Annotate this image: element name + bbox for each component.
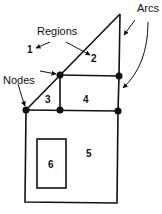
nodes-label: Nodes [3,74,35,86]
arc-middle-horizontal [60,75,119,76]
arcs-label: Arcs [137,2,160,14]
regions-label: Regions [37,25,78,37]
arc-right-upper [119,14,120,76]
flowgraph-diagram: Regions Arcs Nodes 1 2 3 4 5 6 [0,0,162,214]
node [57,107,64,114]
node [115,108,122,115]
arcs-arrow-1 [124,20,135,35]
regions-arrow-1 [36,42,50,48]
node [57,72,64,79]
region-label-1: 1 [27,44,33,55]
arc-right-lower [118,76,119,111]
nodes-arrow-2 [18,84,25,106]
region-label-4: 4 [83,94,89,105]
node [23,107,30,114]
region-label-2: 2 [91,53,97,64]
nodes-arrow-1 [40,71,56,74]
outer-loop [25,110,118,203]
region-label-5: 5 [86,148,92,159]
region-label-6: 6 [48,159,54,170]
arc-bottom-horizontal [26,110,118,111]
region-label-3: 3 [45,94,51,105]
node [116,73,123,80]
